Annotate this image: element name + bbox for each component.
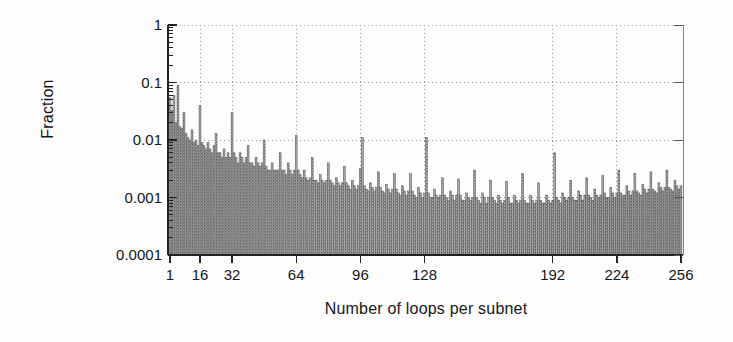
bar <box>582 200 584 255</box>
bar <box>524 200 526 255</box>
bar <box>448 200 450 255</box>
bar <box>223 149 225 255</box>
bar <box>584 195 586 255</box>
bar <box>199 105 201 255</box>
bar <box>353 186 355 255</box>
bar <box>676 186 678 255</box>
bar <box>253 166 255 255</box>
bar <box>662 191 664 255</box>
bar <box>668 187 670 255</box>
bar <box>391 189 393 255</box>
bar <box>375 187 377 255</box>
bar <box>516 200 518 255</box>
bar <box>409 174 411 255</box>
bar <box>299 175 301 255</box>
bar <box>365 189 367 255</box>
bar <box>325 180 327 255</box>
bar <box>680 186 682 255</box>
bar <box>478 200 480 255</box>
bar <box>552 200 554 255</box>
bar <box>556 198 558 256</box>
bar <box>670 189 672 255</box>
bar <box>476 198 478 256</box>
bar <box>257 163 259 255</box>
bar <box>444 195 446 255</box>
bar <box>357 186 359 255</box>
bar <box>456 195 458 255</box>
bar <box>654 191 656 255</box>
bar <box>235 157 237 255</box>
bar <box>474 170 476 255</box>
bar <box>568 198 570 256</box>
bar <box>243 163 245 255</box>
bar <box>646 193 648 255</box>
bar <box>289 170 291 255</box>
bar <box>269 170 271 255</box>
bar <box>317 183 319 255</box>
bar <box>508 198 510 256</box>
bar <box>674 180 676 255</box>
bar <box>564 198 566 256</box>
bar <box>536 200 538 255</box>
bar <box>303 170 305 255</box>
bar <box>652 189 654 255</box>
bar <box>421 198 423 256</box>
bar <box>608 198 610 256</box>
bar <box>498 195 500 255</box>
bar <box>241 157 243 255</box>
bar <box>616 193 618 255</box>
bar <box>518 203 520 255</box>
bar <box>460 195 462 255</box>
bar <box>315 180 317 255</box>
bar <box>514 195 516 255</box>
bar <box>600 195 602 255</box>
bar <box>343 166 345 255</box>
bar <box>602 176 604 255</box>
bar <box>648 189 650 255</box>
bar <box>644 189 646 255</box>
bar <box>345 183 347 255</box>
bar <box>528 203 530 255</box>
bar <box>666 170 668 255</box>
bar <box>275 170 277 255</box>
bar <box>321 180 323 255</box>
bar <box>245 157 247 255</box>
bar <box>532 200 534 255</box>
bar <box>480 203 482 255</box>
bar <box>203 146 205 255</box>
bar <box>432 198 434 256</box>
bar <box>291 175 293 255</box>
bar <box>283 170 285 255</box>
bar <box>440 195 442 255</box>
bar <box>620 193 622 255</box>
bar <box>454 200 456 255</box>
x-ticks <box>170 255 681 263</box>
bar <box>383 193 385 255</box>
bar <box>500 200 502 255</box>
bar <box>554 153 556 255</box>
bar <box>442 178 444 255</box>
bar <box>484 198 486 256</box>
bar <box>307 180 309 255</box>
bar <box>502 203 504 255</box>
bar <box>488 198 490 256</box>
bar <box>349 189 351 255</box>
bar <box>520 200 522 255</box>
bar <box>594 189 596 255</box>
bar <box>464 200 466 255</box>
bar <box>580 195 582 255</box>
bar <box>221 157 223 255</box>
bar <box>219 153 221 255</box>
bar-series <box>169 85 682 255</box>
bar <box>434 189 436 255</box>
bar <box>295 135 297 255</box>
bar <box>618 170 620 255</box>
bar <box>466 193 468 255</box>
bar <box>339 186 341 255</box>
bar <box>413 195 415 255</box>
bar <box>450 191 452 255</box>
bar <box>273 170 275 255</box>
bar <box>233 153 235 255</box>
bar <box>313 180 315 255</box>
bar <box>187 138 189 255</box>
